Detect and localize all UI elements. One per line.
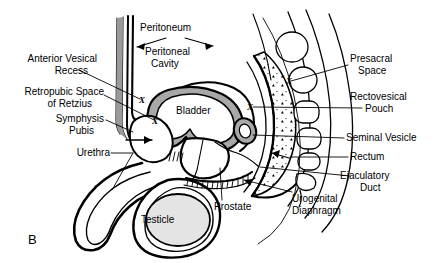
label-testicle: Testicle — [141, 214, 174, 225]
label-urogenital-diaphragm-line2: Diaphragm — [292, 205, 341, 217]
label-urethra: Urethra — [0, 147, 110, 159]
label-rectovesical-pouch-line1: Rectovesical — [350, 91, 407, 103]
abdominal-wall — [116, 16, 133, 144]
panel-letter: B — [28, 232, 37, 247]
x-marker-rectovesical-pouch: X — [247, 102, 253, 112]
label-ejaculatory-duct-line1: Ejaculatory — [340, 170, 389, 182]
label-presacral-space-line2: Space — [358, 65, 386, 77]
label-anterior-vesical-recess-line2: Recess — [0, 65, 88, 77]
x-marker-presacral-space: X — [286, 76, 292, 86]
label-retropubic-space-line2: of Retzius — [0, 98, 92, 110]
label-prostate: Prostate — [214, 201, 251, 213]
label-peritoneal-cavity-line1: Peritoneal — [145, 46, 190, 58]
label-presacral-space-line1: Presacral — [350, 53, 392, 65]
x-marker-retropubic-space: X — [152, 116, 158, 126]
label-symphysis-pubis-line2: Pubis — [0, 125, 94, 137]
label-anterior-vesical-recess-line1: Anterior Vesical — [0, 53, 97, 65]
label-seminal-vesicle: Seminal Vesicle — [346, 132, 417, 144]
label-rectovesical-pouch-line2: Pouch — [365, 103, 393, 115]
label-symphysis-pubis-line1: Symphysis — [0, 113, 104, 125]
label-retropubic-space-line1: Retropubic Space — [0, 86, 104, 98]
x-marker-anterior-vesical-recess: X — [139, 95, 145, 105]
label-ejaculatory-duct-line2: Duct — [360, 182, 381, 194]
label-urogenital-diaphragm-line1: Urogenital — [292, 193, 338, 205]
label-peritoneal-cavity-line2: Cavity — [151, 58, 179, 70]
label-peritoneum: Peritoneum — [140, 22, 191, 34]
label-rectum: Rectum — [350, 151, 384, 163]
anatomy-figure-panel-b: X X X X Peritoneum Peritoneal Cavity Ant… — [0, 0, 438, 263]
prostate — [181, 138, 229, 178]
label-bladder: Bladder — [176, 105, 210, 116]
